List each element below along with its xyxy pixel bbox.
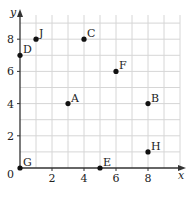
x-tick-label: 4 — [81, 172, 88, 185]
coordinate-grid-chart: xy 246824680 ABCDEFGHJ — [0, 0, 190, 198]
point-label: G — [23, 156, 32, 169]
point-label: B — [151, 92, 159, 105]
y-tick-label: 8 — [7, 33, 14, 46]
point-j: J — [33, 27, 43, 42]
point-marker-icon — [65, 101, 70, 106]
point-label: F — [119, 59, 127, 72]
y-tick-label: 4 — [7, 98, 14, 111]
y-tick-label: 6 — [7, 65, 14, 78]
x-tick-label: 6 — [113, 172, 120, 185]
point-marker-icon — [145, 149, 150, 154]
point-b: B — [145, 92, 159, 107]
point-f: F — [113, 59, 127, 74]
point-label: A — [70, 92, 80, 105]
y-axis-label: y — [9, 6, 17, 19]
point-label: J — [38, 27, 43, 40]
point-label: E — [103, 156, 111, 169]
point-marker-icon — [113, 69, 118, 74]
x-tick-label: 8 — [145, 172, 152, 185]
data-points: ABCDEFGHJ — [17, 27, 160, 170]
point-label: D — [23, 43, 32, 56]
y-axis-arrow-icon — [17, 9, 23, 17]
x-axis-label: x — [178, 169, 185, 182]
point-marker-icon — [33, 37, 38, 42]
y-tick-label: 2 — [7, 130, 14, 143]
point-marker-icon — [81, 37, 86, 42]
point-marker-icon — [145, 101, 150, 106]
point-marker-icon — [17, 165, 22, 170]
point-label: H — [151, 140, 161, 153]
point-e: E — [97, 156, 111, 171]
point-label: C — [87, 27, 95, 40]
origin-label: 0 — [7, 168, 14, 181]
point-marker-icon — [17, 53, 22, 58]
point-marker-icon — [97, 165, 102, 170]
x-tick-label: 2 — [49, 172, 56, 185]
